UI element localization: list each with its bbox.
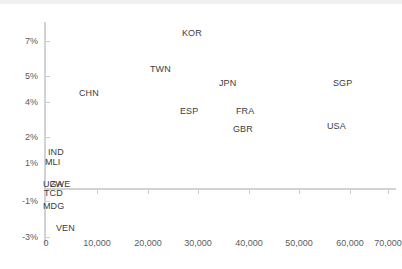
x-axis-tick bbox=[249, 190, 250, 194]
data-point-label-jpn[interactable]: JPN bbox=[219, 78, 236, 88]
y-axis-tick-label: -1% bbox=[8, 196, 38, 206]
y-axis-tick-label: 2% bbox=[8, 132, 38, 142]
data-point-label-kor[interactable]: KOR bbox=[182, 28, 202, 38]
y-axis-tick-label: 7% bbox=[8, 36, 38, 46]
y-axis-tick bbox=[46, 41, 50, 42]
data-point-label-usa[interactable]: USA bbox=[327, 121, 346, 131]
y-axis-tick-label: 1% bbox=[8, 158, 38, 168]
y-axis-tick bbox=[46, 76, 50, 77]
y-axis-tick-label: 5% bbox=[8, 71, 38, 81]
data-point-label-ind[interactable]: IND bbox=[48, 147, 64, 157]
data-point-label-esp[interactable]: ESP bbox=[180, 106, 198, 116]
x-axis-tick bbox=[198, 190, 199, 194]
data-point-label-chn[interactable]: CHN bbox=[79, 88, 99, 98]
x-axis-tick bbox=[148, 190, 149, 194]
data-point-label-gbr[interactable]: GBR bbox=[233, 124, 253, 134]
data-point-label-twn[interactable]: TWN bbox=[150, 64, 171, 74]
x-axis-tick bbox=[97, 190, 98, 194]
data-point-label-ven[interactable]: VEN bbox=[56, 223, 75, 233]
data-point-label-tcd[interactable]: TCD bbox=[44, 188, 63, 198]
data-point-label-sgp[interactable]: SGP bbox=[333, 78, 352, 88]
data-point-label-fra[interactable]: FRA bbox=[236, 106, 254, 116]
y-axis-tick-label: 4% bbox=[8, 97, 38, 107]
plot-area: 7%5%4%2%1%-1%-3%010,00020,00030,00040,00… bbox=[0, 0, 402, 269]
x-axis-tick bbox=[299, 190, 300, 194]
x-axis-tick bbox=[350, 190, 351, 194]
data-point-label-mdg[interactable]: MDG bbox=[43, 201, 64, 211]
y-axis-tick bbox=[46, 137, 50, 138]
x-axis-tick bbox=[388, 190, 389, 194]
x-axis-tick-label: 70,000 bbox=[358, 238, 402, 248]
scatter-chart: 7%5%4%2%1%-1%-3%010,00020,00030,00040,00… bbox=[0, 0, 402, 269]
data-point-label-mli[interactable]: MLI bbox=[45, 157, 60, 167]
y-axis-tick bbox=[46, 102, 50, 103]
